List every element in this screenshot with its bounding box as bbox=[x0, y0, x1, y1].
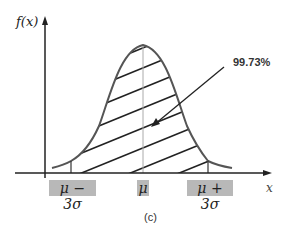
percentage-annotation: 99.73% bbox=[233, 56, 270, 68]
annotation-arrowhead-icon bbox=[151, 118, 160, 127]
tick-label-plus-3sigma: μ + 3σ bbox=[187, 180, 233, 196]
tick-label-mean: μ bbox=[137, 180, 149, 196]
annotation-arrow bbox=[155, 67, 224, 124]
y-axis-label: f(x) bbox=[16, 14, 38, 29]
x-axis-label: x bbox=[266, 181, 273, 195]
normal-distribution-diagram: f(x) x 99.73% μ − 3σ μ μ + 3σ (c) bbox=[0, 0, 290, 235]
y-axis-arrow-icon bbox=[42, 16, 48, 25]
bell-curve bbox=[52, 45, 232, 168]
figure-caption: (c) bbox=[144, 211, 157, 223]
tick-label-minus-3sigma: μ − 3σ bbox=[49, 180, 96, 196]
diagram-canvas bbox=[0, 0, 290, 235]
x-axis-arrow-icon bbox=[263, 170, 272, 176]
